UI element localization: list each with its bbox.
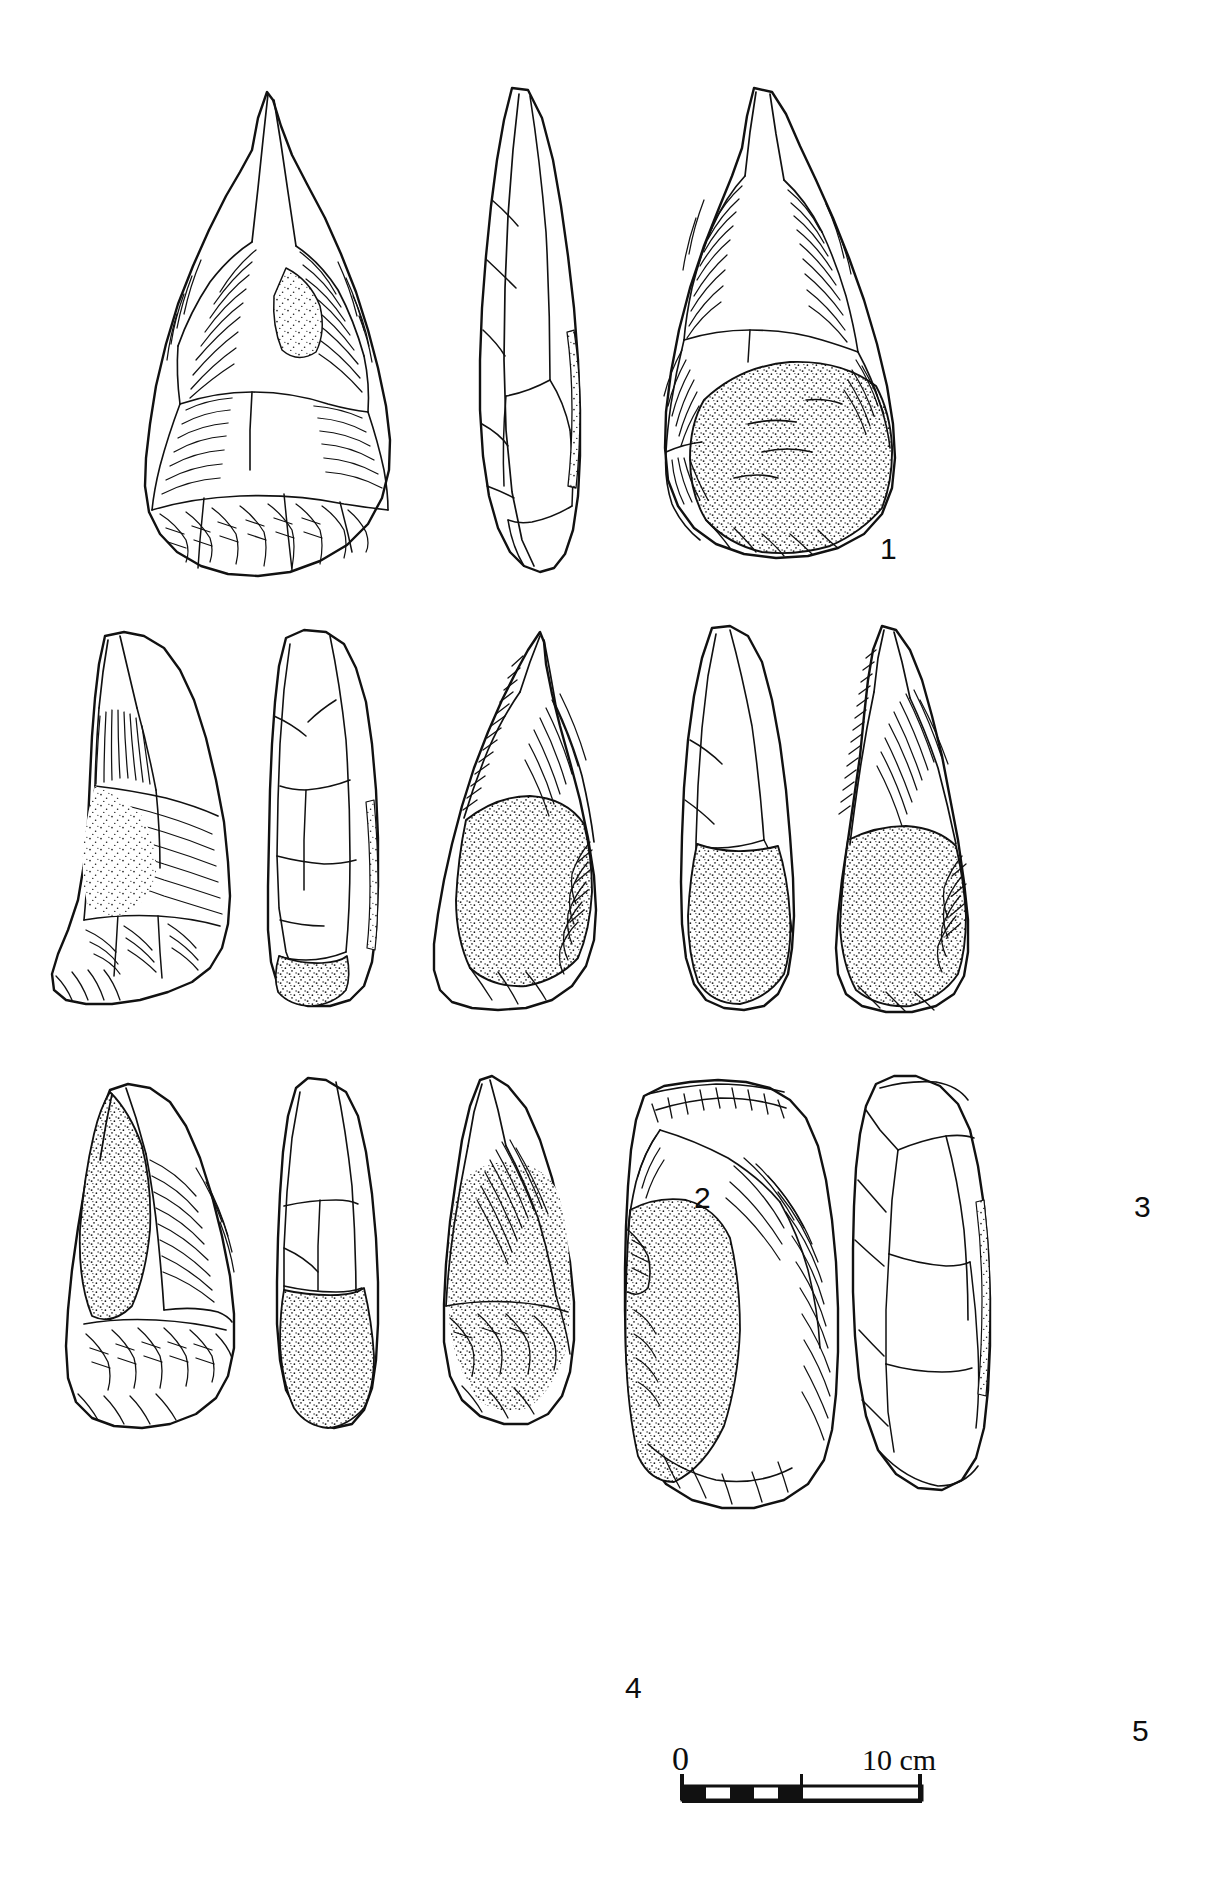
artifact-2-profile-view — [268, 630, 378, 1006]
artifact-1-profile-view — [480, 88, 580, 572]
artifact-4-ventral-view — [444, 1076, 574, 1424]
artifact-label-5: 5 — [1132, 1716, 1149, 1746]
scale-bar-zero-label: 0 — [672, 1742, 689, 1776]
artifact-label-4: 4 — [625, 1673, 642, 1703]
artifact-label-1: 1 — [880, 534, 897, 564]
scale-bar-max-label: 10 cm — [862, 1745, 936, 1775]
artifact-2-dorsal-view — [52, 632, 230, 1004]
lithic-plate-svg — [0, 0, 1225, 1883]
scale-bar: 0 10 cm — [672, 1742, 972, 1817]
illustration-plate: 1 2 3 4 5 0 10 cm — [0, 0, 1225, 1883]
artifact-2-ventral-view — [434, 632, 596, 1010]
artifact-3-face-view — [836, 626, 968, 1012]
artifact-1-ventral-view — [664, 88, 895, 558]
scale-bar-graphic — [672, 1774, 972, 1814]
artifact-1-dorsal-view — [145, 92, 390, 576]
artifact-4-dorsal-view — [66, 1084, 234, 1428]
artifact-4-profile-view — [277, 1078, 378, 1428]
artifact-label-3: 3 — [1134, 1192, 1151, 1222]
artifact-3-profile-view — [681, 626, 794, 1010]
artifact-label-2: 2 — [694, 1183, 711, 1213]
artifact-5-dorsal-view — [625, 1080, 838, 1508]
artifact-5-profile-view — [853, 1076, 990, 1490]
